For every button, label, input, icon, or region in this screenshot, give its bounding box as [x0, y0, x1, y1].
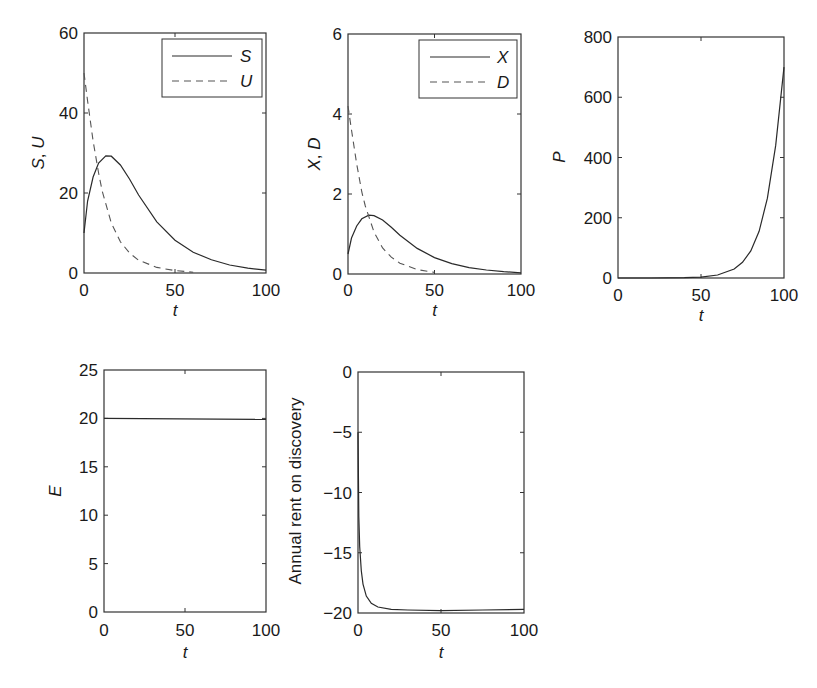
panel-annual-rent: −20 −15 −10 −5 0 0 50 100 t Annual rent …	[286, 363, 538, 662]
x-axis-label: t	[439, 643, 445, 662]
legend: X D	[419, 40, 517, 98]
y-tick: 0	[603, 269, 612, 288]
x-tick: 100	[252, 621, 280, 640]
panel-s-u: 0 20 40 60 0 50 100 t S, U S U	[29, 24, 280, 320]
panel-x-d: 0 2 4 6 0 50 100 t X, D X D	[305, 25, 535, 320]
series-x-line	[348, 215, 521, 273]
series-p-line	[618, 67, 784, 278]
y-tick: 40	[59, 104, 78, 123]
x-tick: 50	[432, 621, 451, 640]
y-axis-label: Annual rent on discovery	[286, 397, 305, 585]
y-tick: 60	[59, 24, 78, 43]
axes-frame	[104, 370, 266, 612]
y-tick: 800	[584, 28, 612, 47]
legend-entry-u: U	[240, 72, 253, 91]
legend: S U	[162, 39, 262, 97]
x-axis-label: t	[173, 301, 179, 320]
legend-entry-s: S	[240, 47, 252, 66]
series-d-line	[348, 106, 435, 272]
y-axis-label: E	[46, 485, 65, 497]
series-e-line	[104, 418, 266, 419]
y-tick: −15	[323, 544, 352, 563]
series-s-line	[84, 156, 266, 270]
y-tick: 20	[79, 409, 98, 428]
y-tick: 2	[333, 185, 342, 204]
axes-frame	[618, 37, 784, 278]
y-tick: 400	[584, 149, 612, 168]
y-tick: 15	[79, 458, 98, 477]
y-tick: 10	[79, 506, 98, 525]
x-tick: 100	[770, 286, 798, 305]
x-tick: 50	[425, 281, 444, 300]
axes-frame	[358, 372, 524, 613]
y-tick: 4	[333, 105, 342, 124]
y-axis-label: X, D	[305, 137, 324, 171]
x-axis-label: t	[432, 301, 438, 320]
y-tick: 0	[343, 363, 352, 382]
y-tick: 20	[59, 184, 78, 203]
y-axis-label: P	[550, 151, 569, 163]
x-tick: 100	[252, 281, 280, 300]
y-tick: 5	[89, 555, 98, 574]
legend-entry-d: D	[497, 73, 509, 92]
series-rent-line	[358, 432, 524, 610]
y-tick: 0	[69, 264, 78, 283]
x-tick: 0	[79, 281, 88, 300]
y-tick: 25	[79, 361, 98, 380]
y-tick: −20	[323, 604, 352, 623]
panel-p: 0 200 400 600 800 0 50 100 t P	[550, 28, 798, 325]
x-tick: 50	[166, 281, 185, 300]
y-tick: −10	[323, 484, 352, 503]
y-axis-label: S, U	[29, 136, 48, 170]
x-axis-label: t	[699, 306, 705, 325]
legend-entry-x: X	[496, 48, 509, 67]
y-tick: 6	[333, 25, 342, 44]
y-tick: 0	[89, 603, 98, 622]
y-tick: −5	[333, 423, 352, 442]
panel-e: 0 5 10 15 20 25 0 50 100 t E	[46, 361, 280, 662]
x-axis-label: t	[183, 643, 189, 662]
x-tick: 0	[353, 621, 362, 640]
x-tick: 100	[507, 281, 535, 300]
x-tick: 50	[692, 286, 711, 305]
x-tick: 0	[613, 286, 622, 305]
y-tick: 0	[333, 265, 342, 284]
figure: 0 20 40 60 0 50 100 t S, U S U 0 2	[0, 0, 817, 688]
y-tick: 200	[584, 209, 612, 228]
x-tick: 0	[99, 621, 108, 640]
x-tick: 0	[343, 281, 352, 300]
x-tick: 100	[510, 621, 538, 640]
series-u-line	[84, 73, 193, 272]
x-tick: 50	[176, 621, 195, 640]
y-tick: 600	[584, 88, 612, 107]
